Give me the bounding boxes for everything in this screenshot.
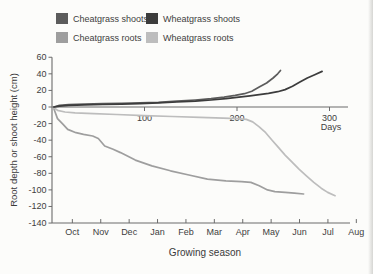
y-axis-tick-label: -60 bbox=[33, 152, 46, 162]
x-axis-title: Growing season bbox=[102, 247, 308, 258]
month-axis-tick-label: Mar bbox=[207, 227, 223, 237]
series-line-wheatgrass-shoots bbox=[54, 71, 322, 107]
figure-root: Cheatgrass shootsWheatgrass shootsCheatg… bbox=[0, 0, 373, 274]
y-axis-tick-label: -80 bbox=[33, 168, 46, 178]
series-line-cheatgrass-shoots bbox=[54, 71, 281, 108]
month-axis-tick-label: Jun bbox=[292, 227, 307, 237]
days-axis-label: Days bbox=[314, 122, 348, 132]
month-axis-tick-label: Jul bbox=[322, 227, 334, 237]
days-axis-tick-label: 100 bbox=[137, 113, 152, 123]
y-axis-tick-label: 0 bbox=[41, 102, 46, 112]
y-axis-tick-label: 40 bbox=[36, 69, 46, 79]
y-axis-tick-label: -40 bbox=[33, 135, 46, 145]
y-axis-tick-label: -100 bbox=[28, 185, 46, 195]
month-axis-tick-label: Dec bbox=[121, 227, 138, 237]
month-axis-tick-label: Apr bbox=[236, 227, 250, 237]
y-axis-tick-label: -140 bbox=[28, 218, 46, 228]
month-axis-tick-label: Aug bbox=[348, 227, 364, 237]
y-axis-tick-label: 60 bbox=[36, 52, 46, 62]
series-line-wheatgrass-roots bbox=[54, 108, 335, 196]
y-axis-tick-label: -20 bbox=[33, 119, 46, 129]
y-axis-tick-label: 20 bbox=[36, 85, 46, 95]
page-edge-shadow bbox=[368, 0, 373, 274]
series-line-cheatgrass-roots bbox=[54, 109, 304, 194]
month-axis-tick-label: Jan bbox=[150, 227, 165, 237]
y-axis-tick-label: -120 bbox=[28, 201, 46, 211]
month-axis-tick-label: Oct bbox=[65, 227, 80, 237]
month-axis-tick-label: Feb bbox=[178, 227, 194, 237]
month-axis-tick-label: May bbox=[263, 227, 281, 237]
month-axis-tick-label: Nov bbox=[93, 227, 110, 237]
plot-area: 6040200-20-40-60-80-100-120-140100200300… bbox=[0, 0, 373, 274]
